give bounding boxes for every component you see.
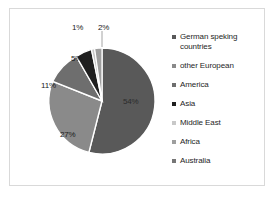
legend-label: America bbox=[180, 80, 209, 90]
pie-label-german-speaking-countries: 54% bbox=[123, 97, 138, 106]
legend-swatch-icon bbox=[172, 121, 176, 125]
legend-item-german-speaking-countries[interactable]: German speking countries bbox=[172, 32, 264, 52]
legend-label: German speking countries bbox=[180, 32, 264, 52]
pie-label-asia: 5% bbox=[71, 54, 82, 63]
legend-item-america[interactable]: America bbox=[172, 80, 264, 90]
legend-swatch-icon bbox=[172, 102, 176, 106]
legend-item-australia[interactable]: Australia bbox=[172, 156, 264, 166]
legend-label: other European bbox=[180, 61, 234, 71]
chart-frame: 54% 27% 11% 5% 1% 2% German speking coun… bbox=[9, 8, 265, 186]
legend-item-asia[interactable]: Asia bbox=[172, 99, 264, 109]
legend-swatch-icon bbox=[172, 64, 176, 68]
legend-item-other-european[interactable]: other European bbox=[172, 61, 264, 71]
legend-label: Africa bbox=[180, 137, 200, 147]
legend-label: Middle East bbox=[180, 118, 221, 128]
legend-swatch-icon bbox=[172, 83, 176, 87]
pie-label-america: 11% bbox=[41, 81, 56, 90]
legend-swatch-icon bbox=[172, 35, 176, 39]
legend-item-middle-east[interactable]: Middle East bbox=[172, 118, 264, 128]
legend-label: Australia bbox=[180, 156, 210, 166]
pie-label-africa: 2% bbox=[98, 23, 109, 32]
pie-label-middle-east: 1% bbox=[72, 23, 83, 32]
legend-swatch-icon bbox=[172, 159, 176, 163]
pie-label-other-european: 27% bbox=[60, 130, 75, 139]
legend-swatch-icon bbox=[172, 140, 176, 144]
legend-item-africa[interactable]: Africa bbox=[172, 137, 264, 147]
chart-legend: German speking countries other European … bbox=[172, 32, 264, 175]
legend-label: Asia bbox=[180, 99, 195, 109]
pie-chart-graphic bbox=[10, 9, 170, 187]
